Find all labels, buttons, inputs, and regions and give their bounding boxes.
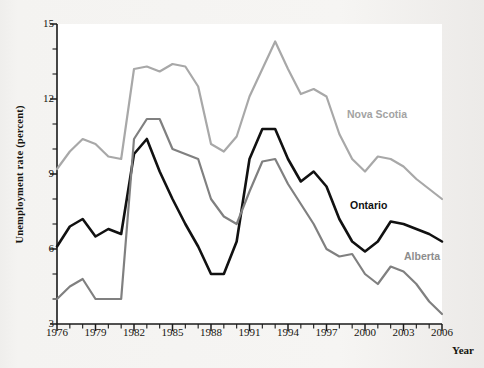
x-axis-tick-label: 1997: [316, 326, 338, 338]
x-axis-tick-label: 2006: [431, 326, 453, 338]
y-axis-tick-labels: 1512963: [28, 24, 54, 324]
line-chart-svg: [0, 0, 484, 368]
x-axis-tick-label: 1991: [239, 326, 261, 338]
chart-figure: Unemployment rate (percent) 1512963 1976…: [0, 0, 484, 368]
y-axis-tick-label: 6: [32, 243, 54, 254]
x-axis-tick-label: 1979: [85, 326, 107, 338]
axis-spines: [57, 24, 442, 324]
y-axis-tick-label: 9: [32, 168, 54, 179]
x-axis-tick-label: 1982: [123, 326, 145, 338]
x-axis-tick-label: 2003: [393, 326, 415, 338]
y-axis-tick-label: 15: [32, 18, 54, 29]
series-line-alberta: [57, 119, 442, 314]
y-axis-tick-label: 12: [32, 93, 54, 104]
x-axis-tick-label: 1976: [46, 326, 68, 338]
y-axis-title-text: Unemployment rate (percent): [14, 105, 25, 243]
x-axis-tick-label: 1994: [277, 326, 299, 338]
x-axis-title: Year: [452, 344, 474, 356]
series-label-nova-scotia: Nova Scotia: [347, 108, 407, 120]
x-axis-tick-labels: 1976197919821985198819911994199720002003…: [57, 326, 442, 342]
series-line-nova-scotia: [57, 42, 442, 200]
x-axis-tick-label: 1985: [162, 326, 184, 338]
series-label-ontario: Ontario: [350, 199, 387, 211]
x-axis-tick-label: 1988: [200, 326, 222, 338]
series-label-alberta: Alberta: [404, 250, 440, 262]
x-axis-tick-label: 2000: [354, 326, 376, 338]
